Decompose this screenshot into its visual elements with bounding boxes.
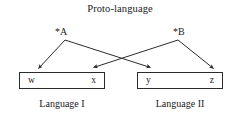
language-ii-box: y z (137, 72, 223, 89)
arrow-proto-a-to-w (39, 40, 66, 69)
proto-form-b: *B (173, 26, 185, 37)
reflex-w: w (28, 76, 35, 86)
language-i-box: w x (19, 72, 105, 89)
language-i-caption: Language I (19, 98, 105, 109)
reflex-z: z (210, 76, 214, 86)
language-ii-caption: Language II (137, 98, 223, 109)
reflex-x: x (91, 76, 96, 86)
arrow-proto-b-to-z (178, 40, 214, 69)
reflex-y: y (146, 76, 151, 86)
proto-language-diagram: Proto-language *A *B w x y z Language I … (0, 0, 240, 119)
proto-form-a: *A (55, 26, 67, 37)
